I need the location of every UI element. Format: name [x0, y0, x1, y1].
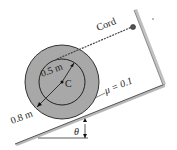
wall: [134, 9, 166, 85]
spool-on-incline-diagram: Cord 0.5 m C 0.8 m μ = 0.1 θ: [0, 0, 177, 150]
friction-label: μ = 0.1: [102, 75, 134, 97]
angle-label: θ: [74, 126, 79, 137]
cord: [57, 27, 132, 59]
stray-mark: [152, 18, 154, 20]
cord-anchor-icon: [131, 25, 136, 30]
center-label: C: [65, 78, 72, 89]
cord-label: Cord: [95, 15, 118, 33]
outer-radius-label: 0.8 m: [9, 108, 34, 126]
angle-indicator: [83, 118, 87, 138]
